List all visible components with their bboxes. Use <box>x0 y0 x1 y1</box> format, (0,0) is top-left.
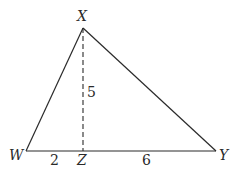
side-wx <box>26 28 83 151</box>
triangle-diagram: X W Y Z 2 6 5 <box>0 0 243 176</box>
length-label-wz: 2 <box>50 152 59 168</box>
length-label-xz: 5 <box>87 84 96 100</box>
side-xy <box>83 28 216 151</box>
length-label-zy: 6 <box>142 152 151 168</box>
vertex-label-w: W <box>9 147 25 163</box>
vertex-label-y: Y <box>219 147 230 163</box>
vertex-label-z: Z <box>76 152 87 168</box>
vertex-label-x: X <box>76 8 88 24</box>
